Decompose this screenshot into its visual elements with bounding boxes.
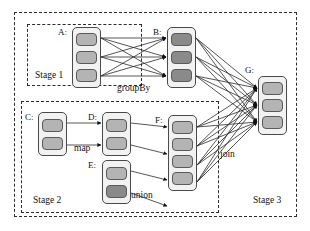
partition[interactable] — [262, 99, 283, 112]
rdd-box-C[interactable] — [38, 112, 67, 156]
operation-label-groupby: groupBy — [117, 84, 150, 94]
rdd-label-C: C: — [25, 113, 34, 122]
rdd-label-A: A: — [58, 28, 67, 37]
partition[interactable] — [76, 69, 97, 82]
partition[interactable] — [172, 138, 193, 151]
rdd-label-E: E: — [88, 161, 96, 170]
rdd-label-B: B: — [153, 28, 162, 37]
partition[interactable] — [171, 51, 192, 64]
stage-label-stage1: Stage 1 — [35, 71, 63, 81]
partition[interactable] — [106, 119, 127, 132]
operation-label-map: map — [74, 144, 90, 154]
stage-label-stage3: Stage 3 — [253, 196, 281, 206]
rdd-label-F: F: — [155, 116, 163, 125]
partition[interactable] — [42, 119, 63, 132]
partition[interactable] — [106, 167, 127, 180]
rdd-box-F[interactable] — [168, 115, 197, 191]
partition[interactable] — [262, 82, 283, 95]
rdd-box-G[interactable] — [258, 76, 287, 135]
rdd-box-E[interactable] — [102, 160, 131, 204]
operation-label-union: union — [131, 191, 153, 201]
partition[interactable] — [262, 116, 283, 129]
partition[interactable] — [171, 33, 192, 46]
operation-label-join: join — [220, 150, 235, 160]
partition[interactable] — [106, 185, 127, 198]
partition[interactable] — [172, 155, 193, 168]
rdd-box-A[interactable] — [72, 27, 101, 88]
partition[interactable] — [76, 33, 97, 46]
partition[interactable] — [172, 172, 193, 185]
partition[interactable] — [172, 121, 193, 134]
rdd-box-B[interactable] — [167, 27, 196, 88]
rdd-label-D: D: — [88, 113, 97, 122]
rdd-label-G: G: — [245, 66, 254, 75]
partition[interactable] — [76, 51, 97, 64]
diagram-canvas: A: B: C: D: E: F: G: groupBy map union j… — [0, 0, 310, 231]
partition[interactable] — [42, 137, 63, 150]
partition[interactable] — [106, 137, 127, 150]
rdd-box-D[interactable] — [102, 112, 131, 156]
partition[interactable] — [171, 69, 192, 82]
stage-label-stage2: Stage 2 — [33, 196, 61, 206]
